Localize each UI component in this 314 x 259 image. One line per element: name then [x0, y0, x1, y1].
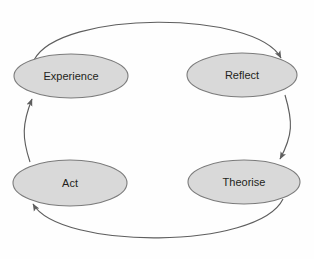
node-reflect[interactable]: Reflect: [187, 53, 297, 97]
edge-act-to-experience: [24, 99, 32, 162]
cycle-diagram: Experience Reflect Theorise Act: [0, 0, 314, 259]
diagram-canvas: Experience Reflect Theorise Act: [0, 0, 314, 259]
node-theorise-label: Theorise: [223, 176, 266, 188]
node-act-label: Act: [62, 177, 78, 189]
node-theorise[interactable]: Theorise: [188, 160, 300, 204]
node-experience[interactable]: Experience: [14, 54, 128, 98]
node-reflect-label: Reflect: [225, 69, 259, 81]
edge-reflect-to-theorise: [280, 95, 290, 159]
node-act[interactable]: Act: [13, 160, 127, 206]
node-experience-label: Experience: [43, 70, 98, 82]
